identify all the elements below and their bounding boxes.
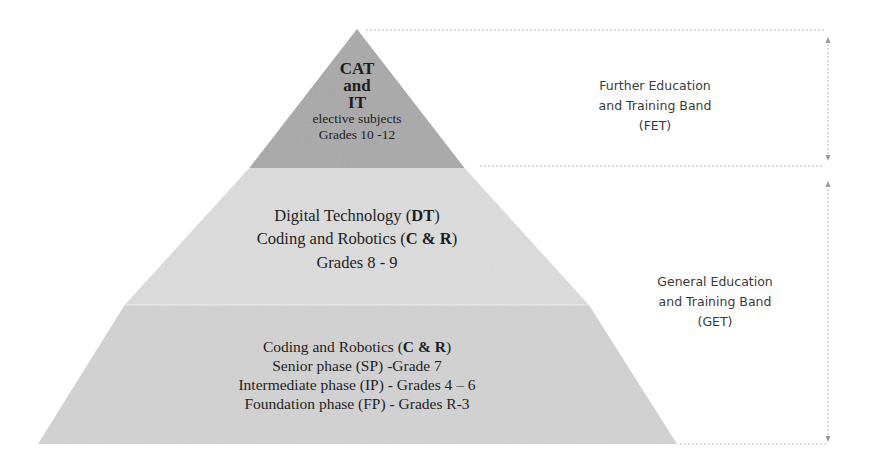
tier-bottom-line-2: Senior phase (SP) -Grade 7 (172, 357, 542, 376)
abbr-dt: DT (411, 206, 434, 225)
tier-top-line-3: IT (257, 94, 457, 111)
tier-middle-line-2: Coding and Robotics (C & R) (207, 227, 507, 250)
tier-middle-text: Digital Technology (DT) Coding and Robot… (207, 204, 507, 274)
tier-bottom-text: Coding and Robotics (C & R) Senior phase… (172, 338, 542, 414)
tier-middle-line-3: Grades 8 - 9 (207, 251, 507, 274)
tier-top-line-5: Grades 10 -12 (257, 127, 457, 143)
fet-arrow-down-icon (826, 155, 831, 161)
tier-top-line-1: CAT (257, 60, 457, 77)
fet-band-label: Further Education and Training Band (FET… (580, 76, 730, 136)
fet-arrow-up-icon (826, 37, 831, 43)
get-arrow-up-icon (826, 181, 831, 187)
tier-bottom-line-3: Intermediate phase (IP) - Grades 4 – 6 (172, 376, 542, 395)
tier-bottom-line-4: Foundation phase (FP) - Grades R-3 (172, 395, 542, 414)
get-arrow-down-icon (826, 436, 831, 442)
abbr-cr: C & R (403, 338, 446, 355)
get-band-label: General Education and Training Band (GET… (640, 272, 790, 332)
abbr-cr: C & R (406, 229, 452, 248)
tier-top-line-4: elective subjects (257, 111, 457, 127)
tier-bottom-line-1: Coding and Robotics (C & R) (172, 338, 542, 357)
tier-top-text: CAT and IT elective subjects Grades 10 -… (257, 60, 457, 142)
tier-top-line-2: and (257, 77, 457, 94)
tier-middle-line-1: Digital Technology (DT) (207, 204, 507, 227)
